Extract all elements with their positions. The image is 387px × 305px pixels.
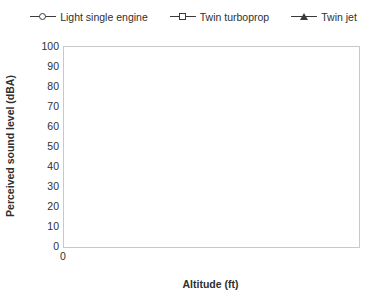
x-axis-title: Altitude (ft) xyxy=(63,278,358,290)
x-axis-tick-labels: 0 xyxy=(0,0,387,305)
chart-container: Light single engine Twin turboprop Twin … xyxy=(0,0,387,305)
x-tick-label: 0 xyxy=(60,250,66,262)
